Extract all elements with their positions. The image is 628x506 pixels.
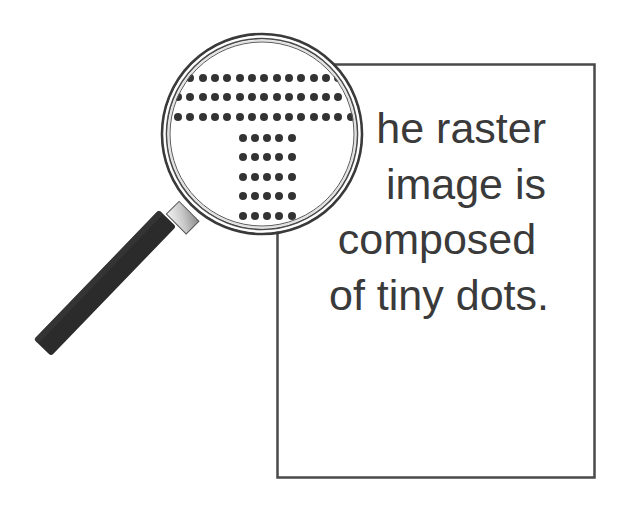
raster-illustration: he raster image is composed of tiny dots… <box>0 0 628 506</box>
caption-line-2: image is <box>386 160 546 208</box>
caption-line-4: of tiny dots. <box>329 271 549 319</box>
caption-line-3: composed <box>338 215 536 263</box>
magnifier-handle <box>34 201 199 356</box>
magnifier-lens <box>162 34 362 234</box>
caption-line-1: he raster <box>376 104 546 152</box>
